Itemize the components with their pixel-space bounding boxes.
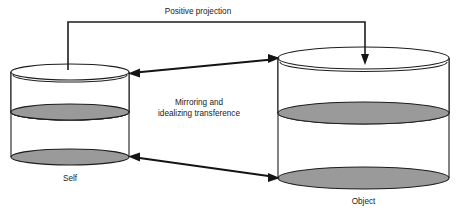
- cylinder-self[interactable]: [11, 64, 129, 165]
- self-middle-disc-top: [11, 104, 129, 120]
- self-object-projection-diagram: Positive projection Mirroring and ideali…: [0, 0, 459, 222]
- transference-label-line1: Mirroring and: [175, 98, 224, 107]
- object-middle-disc-top: [278, 102, 449, 124]
- diagram-canvas: Positive projection Mirroring and ideali…: [0, 0, 459, 222]
- cylinder-object[interactable]: [278, 47, 449, 189]
- transference-label-line2: idealizing transference: [158, 109, 240, 118]
- self-bottom-disc: [11, 149, 129, 165]
- cylinder-object-label: Object: [352, 197, 376, 206]
- positive-projection-label: Positive projection: [165, 7, 232, 16]
- object-bottom-disc: [278, 167, 449, 189]
- lower-transference-arrowhead-left: [128, 153, 140, 162]
- cylinder-self-label: Self: [63, 174, 78, 183]
- upper-transference-arrowhead-left: [128, 69, 140, 78]
- lower-transference-line: [136, 158, 272, 177]
- self-top-opening: [11, 64, 129, 80]
- upper-transference-line: [136, 60, 272, 73]
- connector-lower-transference[interactable]: [128, 153, 280, 183]
- connector-upper-transference[interactable]: [128, 54, 280, 78]
